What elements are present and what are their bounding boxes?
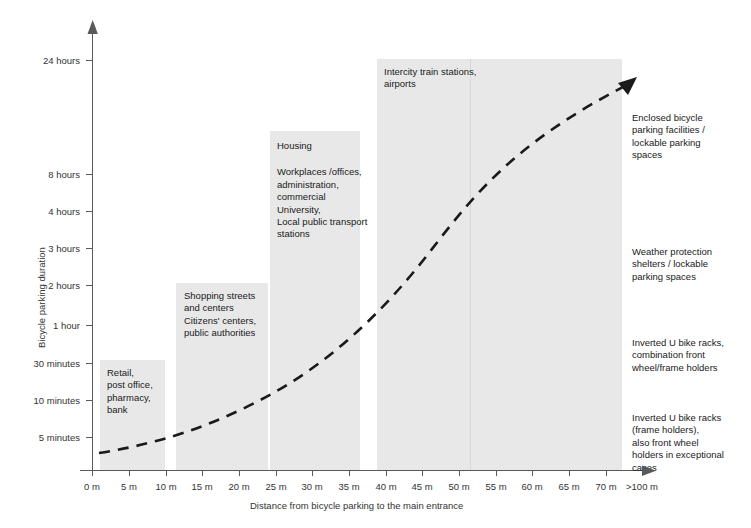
category-label-housing-detail: Workplaces /offices, administration, com… — [277, 166, 387, 240]
y-tick-1-hour — [86, 325, 92, 326]
x-tick-35m — [349, 470, 350, 476]
category-label-housing-title: Housing — [277, 140, 387, 152]
y-tick-3-hours — [86, 248, 92, 249]
category-label-station: Intercity train stations, airports — [384, 66, 514, 91]
y-tick-8-hours — [86, 174, 92, 175]
y-axis-line — [92, 26, 93, 470]
y-tick-label-30-minutes: 30 minutes — [0, 358, 80, 369]
x-tick-5m — [129, 470, 130, 476]
x-tick-25m — [276, 470, 277, 476]
x-tick-0m — [92, 470, 93, 476]
y-tick-5-minutes — [86, 437, 92, 438]
category-label-retail: Retail, post office, pharmacy, bank — [107, 367, 177, 417]
y-tick-30-minutes — [86, 363, 92, 364]
x-tick-label-over-100m: >100 m — [612, 481, 672, 492]
y-tick-24-hours — [86, 60, 92, 61]
category-label-shopping: Shopping streets and centers Citizens' c… — [184, 290, 276, 340]
x-tick-60m — [532, 470, 533, 476]
y-tick-label-10-minutes: 10 minutes — [0, 395, 80, 406]
y-tick-4-hours — [86, 211, 92, 212]
y-tick-2-hours — [86, 285, 92, 286]
y-tick-label-5-minutes: 5 minutes — [0, 432, 80, 443]
category-label-housing: Housing Workplaces /offices, administrat… — [277, 140, 387, 241]
note-inverted-u-racks: Inverted U bike racks, combination front… — [632, 337, 750, 374]
x-tick-40m — [386, 470, 387, 476]
x-tick-45m — [422, 470, 423, 476]
x-tick-30m — [312, 470, 313, 476]
x-tick-50m — [459, 470, 460, 476]
y-axis-title: Bicycle parking duration — [36, 247, 47, 348]
note-enclosed-parking: Enclosed bicycle parking facilities / lo… — [632, 112, 750, 162]
band-station — [377, 59, 622, 470]
note-frame-holders: Inverted U bike racks (frame holders), a… — [632, 412, 750, 474]
y-tick-10-minutes — [86, 400, 92, 401]
x-tick-10m — [166, 470, 167, 476]
chart-root: 24 hours 8 hours 4 hours 3 hours 2 hours… — [0, 0, 751, 528]
y-tick-label-4-hours: 4 hours — [0, 206, 80, 217]
y-tick-label-8-hours: 8 hours — [0, 169, 80, 180]
x-tick-20m — [239, 470, 240, 476]
x-tick-65m — [569, 470, 570, 476]
x-tick-70m — [606, 470, 607, 476]
y-tick-label-24-hours: 24 hours — [0, 55, 80, 66]
x-tick-15m — [202, 470, 203, 476]
band-divider-50m — [470, 59, 471, 470]
x-tick-55m — [496, 470, 497, 476]
x-axis-title: Distance from bicycle parking to the mai… — [250, 500, 463, 511]
note-weather-protection: Weather protection shelters / lockable p… — [632, 246, 750, 283]
